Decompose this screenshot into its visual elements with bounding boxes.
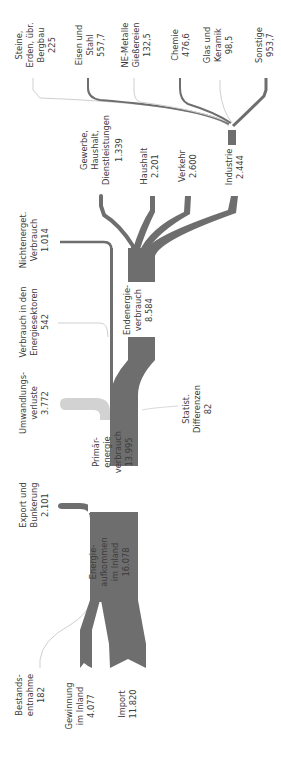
flow-primaer-endenergie [110,345,155,410]
svg-text:Bunkerung: Bunkerung [29,482,39,527]
svg-text:Verbrauch: Verbrauch [29,219,39,261]
svg-text:Verkehr: Verkehr [177,150,187,182]
svg-text:Differenzen: Differenzen [192,385,202,433]
label-eisen: Eisen und Stahl 557,7 [74,25,106,66]
svg-text:13.995: 13.995 [124,437,134,466]
svg-text:953,7: 953,7 [265,33,275,57]
node-industrie [228,130,236,145]
svg-text:557,7: 557,7 [96,33,106,57]
flow-energiesektoren [58,323,108,337]
svg-text:Export und: Export und [18,482,28,528]
svg-text:Primär-: Primär- [91,437,101,467]
label-sonstige: Sonstige 953,7 [254,27,275,63]
label-export: Export und Bunkerung 2.101 [18,482,50,528]
svg-text:1.014: 1.014 [40,228,50,252]
svg-text:Energiesektoren: Energiesektoren [29,288,39,356]
label-umwandlungsverluste: Umwandlungs- verluste 3.772 [18,372,50,434]
flow-sonstige [233,78,266,126]
svg-text:Gewinnung: Gewinnung [64,683,74,730]
dot-gewerbe [99,194,103,198]
svg-text:Energie-: Energie- [88,545,98,580]
flow-industrie [146,196,238,256]
label-industrie: Industrie 2.444 [224,149,245,186]
svg-text:verbrauch: verbrauch [133,289,143,331]
svg-text:Statist.: Statist. [181,394,191,423]
label-steine: Steine, Erden, übr. Bergbau 225 [14,22,57,67]
label-nichtenerget: Nichtenerget. Verbrauch 1.014 [18,212,50,269]
flow-gewerbe [101,196,133,252]
label-gewerbe: Gewerbe, Haushalt, Dienstleistungen 1.33… [79,115,124,185]
label-verkehr: Verkehr 2.600 [177,150,198,182]
svg-text:Bestands-: Bestands- [14,674,24,715]
svg-text:Haushalt: Haushalt [139,147,149,185]
svg-text:Dienstleistungen: Dienstleistungen [101,115,111,185]
flow-import [101,600,146,668]
svg-text:Steine,: Steine, [14,31,24,60]
svg-text:2.444: 2.444 [235,155,245,179]
svg-text:2.101: 2.101 [40,493,50,517]
node-endenergie-bottom [128,337,155,346]
svg-text:Verbrauch in den: Verbrauch in den [18,287,28,358]
label-import: Import 11.820 [117,689,138,718]
svg-text:Sonstige: Sonstige [254,27,264,63]
svg-text:542: 542 [40,314,50,330]
svg-text:Stahl: Stahl [85,34,95,55]
svg-text:Gewerbe,: Gewerbe, [79,130,89,170]
svg-text:Nichtenerget.: Nichtenerget. [18,212,28,269]
svg-text:132,5: 132,5 [142,33,152,57]
svg-text:Gießereien: Gießereien [131,22,141,67]
svg-text:Erden, übr.: Erden, übr. [25,22,35,67]
svg-text:aufkommen: aufkommen [99,537,109,586]
svg-text:Umwandlungs-: Umwandlungs- [18,372,28,434]
label-ne-metalle: NE-Metalle Gießereien 132,5 [120,22,152,67]
label-chemie: Chemie 476,6 [170,29,191,61]
flow-statist-differenzen [142,406,178,410]
svg-text:4.077: 4.077 [86,694,96,718]
svg-text:NE-Metalle: NE-Metalle [120,23,130,68]
svg-text:82: 82 [203,404,213,415]
svg-text:im Inland: im Inland [75,687,85,726]
svg-text:Chemie: Chemie [170,29,180,61]
svg-text:Keramik: Keramik [213,28,223,62]
label-statist-differenzen: Statist. Differenzen 82 [181,385,213,433]
svg-text:2.600: 2.600 [188,154,198,178]
svg-text:182: 182 [36,687,46,703]
svg-text:16.078: 16.078 [121,547,131,576]
svg-text:225: 225 [47,37,57,53]
flow-ne-metalle [134,78,230,123]
flow-gewinnung [80,600,100,668]
flow-nichtenerget-trunk [110,248,113,418]
svg-text:Haushalt,: Haushalt, [90,130,100,169]
svg-text:Import: Import [117,689,127,717]
svg-text:Glas und: Glas und [202,27,212,64]
svg-text:476,6: 476,6 [181,33,191,57]
svg-text:Bergbau: Bergbau [36,28,46,63]
svg-text:Eisen und: Eisen und [74,25,84,66]
label-glas: Glas und Keramik 98,5 [202,27,234,64]
svg-text:2.201: 2.201 [150,154,160,178]
svg-text:3.772: 3.772 [40,391,50,415]
svg-text:energie: energie [102,436,112,467]
svg-text:11.820: 11.820 [128,689,138,718]
svg-text:Endenergie-: Endenergie- [122,285,132,335]
sankey-diagram: Bestands- entnahme 182 Gewinnung im Inla… [0,0,281,768]
svg-text:1.339: 1.339 [114,138,124,162]
label-gewinnung: Gewinnung im Inland 4.077 [64,683,96,730]
svg-text:98,5: 98,5 [224,36,234,54]
svg-text:entnahme: entnahme [25,674,35,716]
svg-text:Industrie: Industrie [224,149,234,186]
label-bestandsentnahme: Bestands- entnahme 182 [14,674,46,716]
svg-text:verbrauch: verbrauch [113,431,123,473]
node-primaer-bottom [90,512,138,520]
label-energiesektoren: Verbrauch in den Energiesektoren 542 [18,287,50,358]
svg-text:8.584: 8.584 [144,298,154,322]
svg-text:verluste: verluste [29,386,39,420]
label-haushalt: Haushalt 2.201 [139,147,160,185]
flow-nichtenerget [60,242,112,250]
flow-umwandlungsverluste [60,398,110,420]
svg-text:im Inland: im Inland [110,543,120,582]
